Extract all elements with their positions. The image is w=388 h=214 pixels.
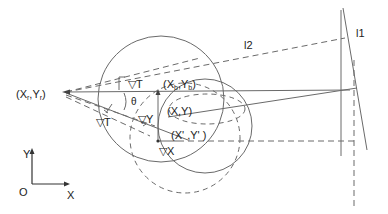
label-delta-y: ▽Y [138,113,154,125]
theta-arc [124,93,126,110]
delta-t-upper-bracket [119,77,125,90]
label-theta: θ [131,96,137,107]
label-x-axis: X [67,189,75,201]
label-origin-o: O [19,186,28,198]
label-new-point: (X' ,Y' ) [171,129,206,141]
label-delta-t-upper: ▽T [128,78,143,90]
origin-arrowhead-icon [62,90,70,95]
delta-y-arrow-icon [156,89,161,95]
horizontal-reference-line [66,90,350,92]
coordinate-axes [30,148,71,187]
second-circle [158,79,252,173]
slanted-solid-line [168,88,357,117]
label-l2: l2 [244,39,253,51]
label-delta-t-lower: ▽T [96,116,111,128]
label-base-point: (Xb,Yb) [163,78,196,91]
x-axis-arrow-icon [64,182,70,187]
label-origin-point: (Xr,Yr) [16,88,46,101]
label-current-point: (X,Y) [167,105,192,117]
label-l1: l1 [356,27,365,39]
label-y-axis: Y [23,148,31,160]
label-delta-x: ▽X [159,145,175,157]
diagram-canvas: (Xr,Yr) (Xb,Yb) (X,Y) (X' ,Y' ) ▽T ▽T ▽Y… [0,0,388,214]
point-marker [156,139,159,142]
